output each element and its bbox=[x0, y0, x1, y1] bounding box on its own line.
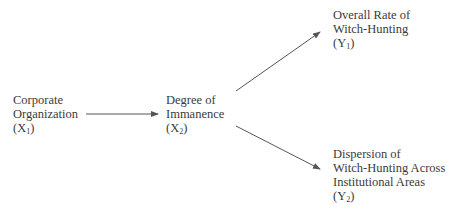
node-corporate-organization: Corporate Organization (X1) bbox=[13, 93, 78, 135]
variable-subscript: 1 bbox=[346, 42, 350, 51]
node-dispersion-of-witch-hunting: Dispersion of Witch-Hunting Across Insti… bbox=[333, 147, 445, 203]
arrow-x2-to-y2 bbox=[236, 126, 320, 169]
node-label-line: Witch-Hunting Across bbox=[333, 161, 445, 175]
node-variable: (Y2) bbox=[333, 189, 445, 203]
node-variable: (X2) bbox=[166, 121, 224, 135]
node-label-line: Degree of bbox=[166, 93, 224, 107]
arrow-x2-to-y1 bbox=[236, 32, 320, 91]
variable-symbol: Y bbox=[337, 189, 346, 203]
node-variable: (X1) bbox=[13, 121, 78, 135]
node-degree-of-immanence: Degree of Immanence (X2) bbox=[166, 93, 224, 135]
variable-symbol: Y bbox=[337, 36, 346, 50]
node-label-line: Overall Rate of bbox=[333, 8, 410, 22]
node-label-line: Witch-Hunting bbox=[333, 22, 410, 36]
variable-subscript: 2 bbox=[346, 195, 350, 204]
node-variable: (Y1) bbox=[333, 36, 410, 50]
variable-symbol: X bbox=[17, 121, 26, 135]
variable-subscript: 1 bbox=[26, 127, 30, 136]
node-label-line: Immanence bbox=[166, 107, 224, 121]
node-overall-rate-of-witch-hunting: Overall Rate of Witch-Hunting (Y1) bbox=[333, 8, 410, 50]
node-label-line: Dispersion of bbox=[333, 147, 445, 161]
variable-subscript: 2 bbox=[179, 127, 183, 136]
node-label-line: Institutional Areas bbox=[333, 175, 445, 189]
node-label-line: Corporate bbox=[13, 93, 78, 107]
variable-symbol: X bbox=[170, 121, 179, 135]
node-label-line: Organization bbox=[13, 107, 78, 121]
